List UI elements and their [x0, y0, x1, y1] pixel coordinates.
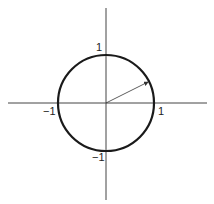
radius-arrow: [106, 82, 148, 103]
label-left: −1: [43, 105, 56, 117]
label-top: 1: [96, 41, 102, 53]
label-bottom: −1: [92, 151, 105, 163]
diagram-canvas: 1 −1 −1 1: [0, 0, 214, 204]
unit-circle-diagram: 1 −1 −1 1: [0, 0, 214, 204]
label-right: 1: [158, 105, 164, 117]
